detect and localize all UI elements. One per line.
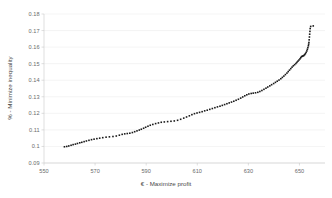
data-point [189, 115, 191, 117]
data-point [259, 91, 261, 93]
data-point [201, 111, 203, 113]
data-point [155, 123, 157, 125]
data-point [109, 136, 111, 138]
scatter-chart: 0.090.10.110.120.130.140.150.160.170.18 … [0, 0, 332, 198]
data-point [246, 94, 248, 96]
y-tick-label-7: 0.16 [29, 44, 40, 50]
data-point [75, 143, 77, 145]
data-point [248, 93, 250, 95]
data-point [149, 124, 151, 126]
data-point [164, 121, 166, 123]
data-point [86, 140, 88, 142]
chart-background [0, 0, 332, 198]
x-axis-title: € - Maximize profit [141, 180, 192, 187]
data-point [112, 136, 114, 138]
data-point [147, 125, 149, 127]
data-point [285, 74, 287, 76]
data-point [186, 116, 188, 118]
data-point [238, 98, 240, 100]
data-point [244, 95, 246, 97]
data-point [194, 113, 196, 115]
data-point [83, 141, 85, 143]
y-tick-label-9: 0.18 [29, 11, 40, 17]
data-point [143, 127, 145, 129]
data-point [180, 118, 182, 120]
data-point [252, 92, 254, 94]
data-point [212, 108, 214, 110]
data-point [271, 84, 273, 86]
data-point [204, 110, 206, 112]
data-point [121, 134, 123, 136]
data-point [167, 121, 169, 123]
data-point [132, 132, 134, 134]
x-tick-label-5: 650 [295, 168, 304, 174]
x-tick-label-0: 550 [39, 168, 48, 174]
data-point [312, 25, 314, 27]
data-point [309, 36, 311, 38]
data-point [290, 68, 292, 70]
data-point [283, 75, 285, 77]
data-point [209, 109, 211, 111]
data-point [273, 83, 275, 85]
y-tick-label-4: 0.13 [29, 94, 40, 100]
data-point [173, 120, 175, 122]
data-point [224, 104, 226, 106]
data-point [141, 128, 143, 130]
data-point [250, 93, 252, 95]
data-point [79, 142, 81, 144]
data-point [152, 124, 154, 126]
data-point [77, 143, 79, 145]
data-point [134, 131, 136, 133]
data-point [68, 145, 70, 147]
data-point [64, 146, 66, 148]
data-point [231, 101, 233, 103]
data-point [289, 69, 291, 71]
data-point [129, 132, 131, 134]
data-point [115, 135, 117, 137]
data-point [219, 105, 221, 107]
data-point [88, 140, 90, 142]
data-point [145, 126, 147, 128]
y-tick-label-6: 0.15 [29, 61, 40, 67]
data-point [124, 133, 126, 135]
y-tick-label-3: 0.12 [29, 110, 40, 116]
data-point [96, 138, 98, 140]
data-point [177, 119, 179, 121]
data-point [233, 100, 235, 102]
data-point [261, 90, 263, 92]
data-point [278, 79, 280, 81]
x-tick-label-3: 610 [193, 168, 202, 174]
data-point [275, 82, 277, 84]
data-point [282, 77, 284, 79]
data-point [307, 47, 309, 49]
data-point [66, 146, 68, 148]
data-point [226, 103, 228, 105]
data-point [214, 107, 216, 109]
y-tick-label-8: 0.17 [29, 28, 40, 34]
data-point [91, 139, 93, 141]
data-point [81, 142, 83, 144]
data-point [306, 50, 308, 52]
data-point [126, 133, 128, 135]
data-point [280, 78, 282, 80]
data-point [265, 87, 267, 89]
data-point [196, 112, 198, 114]
data-point [222, 105, 224, 107]
data-point [308, 45, 310, 47]
data-point [308, 42, 310, 44]
data-point [309, 33, 311, 35]
data-point [70, 144, 72, 146]
data-point [206, 109, 208, 111]
data-point [309, 28, 311, 30]
data-point [310, 26, 312, 28]
data-point [305, 52, 307, 54]
data-point [199, 112, 201, 114]
y-tick-label-1: 0.1 [32, 143, 40, 149]
data-point [170, 120, 172, 122]
data-point [217, 106, 219, 108]
data-point [99, 137, 101, 139]
data-point [242, 96, 244, 98]
data-point [228, 102, 230, 104]
data-point [93, 138, 95, 140]
data-point [307, 48, 309, 50]
